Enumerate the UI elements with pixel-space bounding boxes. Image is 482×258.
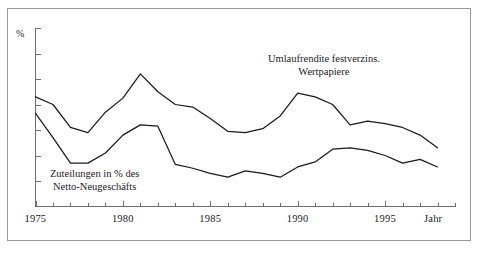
chart-screenshot: % 1975 1980 1985 1990 1995 Jahr Umlaufre… bbox=[0, 0, 482, 258]
x-tick-label-1975: 1975 bbox=[25, 213, 47, 224]
series-annotation-zuteilungen: Zuteilungen in % des Netto-Neugeschäfts bbox=[50, 167, 140, 193]
x-tick-label-1990: 1990 bbox=[287, 213, 309, 224]
x-axis-caption: Jahr bbox=[424, 213, 442, 224]
y-axis-unit-label: % bbox=[16, 28, 24, 39]
series-annotation-zuteilungen-line1: Zuteilungen in % des bbox=[50, 167, 140, 180]
y-axis-ticks bbox=[36, 29, 41, 182]
series-annotation-umlaufrendite-line2: Wertpapiere bbox=[268, 65, 380, 78]
series-annotation-umlaufrendite: Umlaufrendite festverzins. Wertpapiere bbox=[268, 52, 380, 78]
x-tick-label-1980: 1980 bbox=[112, 213, 134, 224]
series-line-umlaufrendite bbox=[36, 74, 438, 148]
x-axis-ticks bbox=[37, 201, 456, 207]
x-tick-label-1985: 1985 bbox=[199, 213, 221, 224]
chart-plot-area bbox=[0, 0, 482, 258]
series-annotation-zuteilungen-line2: Netto-Neugeschäfts bbox=[50, 180, 140, 193]
data-series-group bbox=[36, 74, 438, 177]
series-annotation-umlaufrendite-line1: Umlaufrendite festverzins. bbox=[268, 52, 380, 65]
x-tick-label-1995: 1995 bbox=[374, 213, 396, 224]
